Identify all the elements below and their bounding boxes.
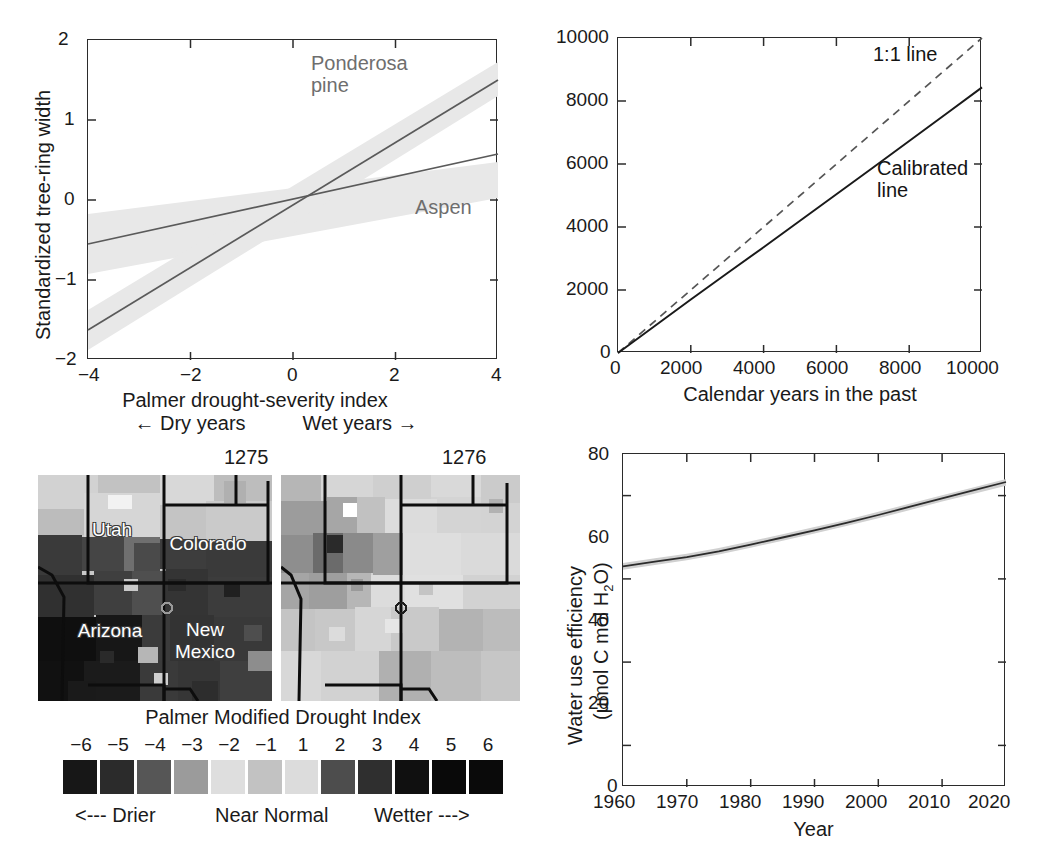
c14-ytick-10000: 10000 bbox=[556, 26, 609, 48]
treering-ytick-1: 1 bbox=[64, 108, 75, 130]
colorbar-footer-wetter: Wetter ---> bbox=[374, 804, 470, 827]
colorbar-tick-m3: −3 bbox=[181, 734, 203, 756]
colorbar-swatch-m2 bbox=[211, 760, 245, 794]
colorbar-tick-5: 5 bbox=[446, 734, 457, 756]
treering-xtick-m2: −2 bbox=[180, 364, 202, 386]
c14-ytick-0: 0 bbox=[600, 341, 611, 363]
colorbar-swatch-m5 bbox=[100, 760, 134, 794]
drought-map-1275[interactable] bbox=[38, 475, 272, 701]
map-year-label-1276: 1276 bbox=[442, 446, 487, 469]
wue-ytick-20: 20 bbox=[588, 692, 609, 714]
wue-xtick-1980: 1980 bbox=[719, 791, 761, 813]
wue-y-axis-title-line1: Water use efficiency bbox=[564, 566, 587, 745]
treering-ytick-0: 0 bbox=[64, 188, 75, 210]
colorbar-tick-m2: −2 bbox=[218, 734, 240, 756]
wue-ytick-80: 80 bbox=[588, 443, 609, 465]
drought-map-1275-svg bbox=[38, 475, 272, 701]
colorbar-footer-drier: <--- Drier bbox=[75, 804, 156, 827]
wue-ytick-60: 60 bbox=[588, 526, 609, 548]
calibrated-line-label: Calibrated line bbox=[877, 157, 992, 202]
wue-xtick-1960: 1960 bbox=[593, 791, 635, 813]
treering-ytick-m1: −1 bbox=[55, 268, 77, 290]
treering-ytick-2: 2 bbox=[58, 28, 69, 50]
wue-confidence-band bbox=[623, 479, 1006, 570]
colorbar-swatches bbox=[63, 760, 503, 794]
wue-tick-marks bbox=[623, 454, 1006, 787]
treering-xtick-4: 4 bbox=[491, 364, 502, 386]
colorbar-tick-2: 2 bbox=[335, 734, 346, 756]
treering-x-axis-title: Palmer drought-severity index bbox=[0, 389, 510, 412]
c14-xtick-8000: 8000 bbox=[879, 357, 921, 379]
calibrated-line bbox=[618, 87, 982, 353]
colorbar-swatch-m6 bbox=[63, 760, 97, 794]
colorbar-swatch-5 bbox=[432, 760, 466, 794]
c14-xtick-0: 0 bbox=[610, 357, 621, 379]
colorbar-swatch-2 bbox=[321, 760, 355, 794]
one-to-one-line-label: 1:1 line bbox=[873, 43, 938, 65]
c14-xtick-10000: 10000 bbox=[946, 357, 999, 379]
wue-xtick-2020: 2020 bbox=[968, 791, 1010, 813]
wue-units-post: O) bbox=[590, 562, 612, 584]
panel-c14-calibration: 14C years in the past 10000 8000 6000 40… bbox=[510, 0, 1038, 420]
c14-xtick-6000: 6000 bbox=[806, 357, 848, 379]
treering-y-axis-title: Standardized tree-ring width bbox=[32, 90, 55, 340]
colorbar-tick-m1: −1 bbox=[255, 734, 277, 756]
map-year-label-1275: 1275 bbox=[224, 446, 269, 469]
colorbar-swatch-4 bbox=[395, 760, 429, 794]
c14-xtick-2000: 2000 bbox=[660, 357, 702, 379]
colorbar-tick-labels: −6 −5 −4 −3 −2 −1 1 2 3 4 5 6 bbox=[63, 734, 503, 758]
wue-xtick-2000: 2000 bbox=[845, 791, 887, 813]
treering-ytick-m2: −2 bbox=[55, 348, 77, 370]
drought-map-1276[interactable] bbox=[281, 475, 520, 701]
c14-ytick-4000: 4000 bbox=[566, 215, 608, 237]
wue-x-axis-title: Year bbox=[622, 818, 1005, 841]
colorbar-tick-m5: −5 bbox=[107, 734, 129, 756]
wue-xtick-2010: 2010 bbox=[908, 791, 950, 813]
c14-ytick-2000: 2000 bbox=[566, 278, 608, 300]
colorbar-swatch-m1 bbox=[248, 760, 282, 794]
map-1275-raster bbox=[38, 475, 272, 701]
colorbar-footer-near-normal: Near Normal bbox=[215, 804, 328, 827]
drought-colorbar: Palmer Modified Drought Index −6 −5 −4 −… bbox=[63, 706, 503, 836]
colorbar-swatch-m3 bbox=[174, 760, 208, 794]
ponderosa-pine-label: Ponderosa pine bbox=[311, 52, 431, 97]
colorbar-tick-m6: −6 bbox=[70, 734, 92, 756]
wue-xtick-1970: 1970 bbox=[656, 791, 698, 813]
aspen-label: Aspen bbox=[415, 196, 472, 218]
colorbar-swatch-1 bbox=[285, 760, 319, 794]
drought-map-1276-svg bbox=[281, 475, 520, 701]
wue-svg bbox=[623, 454, 1006, 787]
wue-plot-area bbox=[622, 453, 1005, 786]
panel-drought-maps: 1275 1276 bbox=[0, 430, 530, 846]
colorbar-tick-3: 3 bbox=[372, 734, 383, 756]
panel-water-use-efficiency: Water use efficiency (µmol C mol H2O) 80… bbox=[520, 420, 1038, 846]
c14-ytick-6000: 6000 bbox=[566, 152, 608, 174]
colorbar-swatch-6 bbox=[469, 760, 503, 794]
c14-ytick-8000: 8000 bbox=[566, 89, 608, 111]
treering-xtick-0: 0 bbox=[287, 364, 298, 386]
colorbar-tick-1: 1 bbox=[298, 734, 309, 756]
treering-xtick-m4: −4 bbox=[78, 364, 100, 386]
treering-xtick-2: 2 bbox=[389, 364, 400, 386]
colorbar-tick-6: 6 bbox=[483, 734, 494, 756]
wue-ytick-40: 40 bbox=[588, 609, 609, 631]
panel-treering-pdsi: Standardized tree-ring width 2 1 0 −1 −2… bbox=[0, 0, 510, 440]
colorbar-title: Palmer Modified Drought Index bbox=[63, 706, 503, 729]
colorbar-tick-m4: −4 bbox=[144, 734, 166, 756]
wue-xtick-1990: 1990 bbox=[782, 791, 824, 813]
colorbar-tick-4: 4 bbox=[409, 734, 420, 756]
wue-units-sub: 2 bbox=[601, 585, 616, 592]
colorbar-swatch-3 bbox=[358, 760, 392, 794]
c14-x-axis-title: Calendar years in the past bbox=[590, 383, 1010, 406]
c14-xtick-4000: 4000 bbox=[733, 357, 775, 379]
colorbar-swatch-m4 bbox=[137, 760, 171, 794]
